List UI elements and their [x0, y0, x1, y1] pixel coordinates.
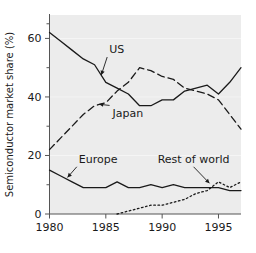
x-tick-label: 1990 [148, 221, 176, 234]
series-annotation-label-japan: Japan [112, 107, 144, 120]
y-axis-title: Semiconductor market share (%) [4, 32, 15, 197]
y-tick-label: 20 [28, 149, 42, 162]
series-annotation-label-us: US [109, 43, 124, 56]
plot-area-background [50, 15, 242, 214]
semiconductor-market-share-line-chart: 1980198519901995 0204060 USJapanEuropeRe… [0, 0, 256, 253]
y-tick-label: 60 [28, 32, 42, 45]
x-tick-label: 1980 [36, 221, 64, 234]
y-tick-label: 40 [28, 91, 42, 104]
x-tick-label: 1995 [204, 221, 232, 234]
y-tick-label: 0 [35, 208, 42, 221]
series-annotation-label-europe: Europe [79, 153, 118, 166]
series-annotation-label-rest-of-world: Rest of world [158, 153, 230, 166]
chart-figure: 1980198519901995 0204060 USJapanEuropeRe… [0, 0, 256, 253]
x-tick-label: 1985 [92, 221, 120, 234]
